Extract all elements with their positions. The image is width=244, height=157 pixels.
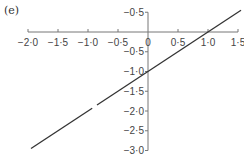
x-tick-label: −1·5 [48,37,69,48]
y-tick-label: −2·5 [124,125,145,136]
series-line-segment [97,10,241,105]
y-tick-label: −2·0 [124,106,145,117]
series-line-segment [31,108,92,148]
x-tick-label: −1·0 [78,37,99,48]
y-tick-label: −0·5 [124,46,145,57]
x-tick-label: 0·5 [171,37,186,48]
x-tick-label: 1·5 [231,37,244,48]
y-tick-label: −1·5 [124,86,145,97]
line-chart: −2·0−1·5−1·0−0·500·51·01·5−0·5−0·5−1·0−1… [0,0,244,157]
y-tick-label: −3·0 [124,145,145,156]
y-tick-label: −0·5 [124,7,145,18]
x-tick-label: 1·0 [201,37,216,48]
x-tick-label: −2·0 [18,37,39,48]
x-tick-label: 0 [145,37,151,48]
